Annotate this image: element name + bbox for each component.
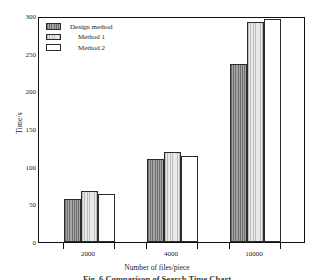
legend-label-design-method: Design method	[70, 23, 113, 31]
y-axis-title: Time/s	[16, 97, 24, 149]
legend-swatch-icon-method-1	[46, 34, 61, 41]
figure-caption: Fig. 6 Comparison of Search Time Chart	[0, 274, 314, 280]
legend-swatch-icon-design-method	[46, 23, 61, 30]
y-tick-label-0: 0	[0, 240, 36, 247]
legend-item-method-2: Method 2	[46, 43, 142, 52]
bar-4000-method-1	[164, 152, 181, 242]
legend-label-method-1: Method 1	[78, 33, 105, 41]
x-tick-label-4000: 4000	[141, 250, 201, 258]
bar-10000-method-1	[247, 22, 264, 242]
legend-swatch-icon-method-2	[46, 44, 61, 51]
bar-4000-design-method	[147, 159, 164, 242]
x-tick-mark-left-2	[146, 243, 147, 249]
legend: Design method Method 1 Method 2	[46, 22, 142, 54]
x-tick-label-10000: 10000	[224, 250, 284, 258]
x-tick-label-2000: 2000	[58, 250, 118, 258]
y-tick-label-50: 50	[0, 202, 36, 209]
y-tick-label-100: 100	[0, 164, 36, 171]
legend-item-method-1: Method 1	[46, 33, 142, 42]
bar-2000-design-method	[64, 199, 81, 242]
y-tick-label-150: 150	[0, 127, 36, 134]
bar-10000-method-2	[264, 19, 281, 242]
bar-2000-method-2	[98, 194, 115, 242]
legend-label-method-2: Method 2	[78, 44, 105, 52]
x-tick-mark-left-3	[229, 243, 230, 249]
bar-2000-method-1	[81, 191, 98, 242]
y-tick-label-200: 200	[0, 89, 36, 96]
figure-bar-chart: Time/s 300 250 200 150 100 50 0 Design m…	[0, 0, 314, 280]
x-tick-mark-right-2	[197, 243, 198, 249]
x-tick-mark-right-1	[114, 243, 115, 249]
x-tick-mark-left-1	[63, 243, 64, 249]
y-tick-label-300: 300	[0, 14, 36, 21]
x-tick-mark-right-3	[280, 243, 281, 249]
legend-item-design-method: Design method	[46, 22, 142, 31]
bar-4000-method-2	[181, 156, 198, 242]
bar-10000-design-method	[230, 64, 247, 243]
x-axis-title: Number of files/piece	[0, 263, 314, 272]
y-tick-label-250: 250	[0, 51, 36, 58]
